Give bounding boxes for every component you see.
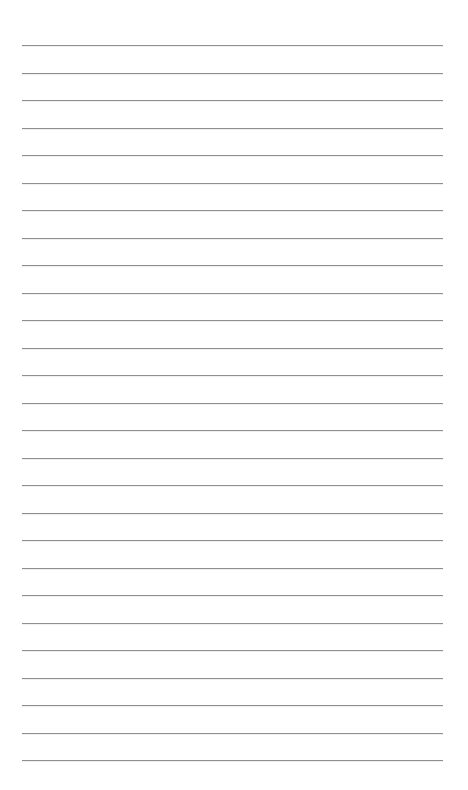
- ruled-line: [22, 100, 443, 101]
- ruled-line: [22, 293, 443, 294]
- ruled-line: [22, 760, 443, 761]
- ruled-line: [22, 430, 443, 431]
- ruled-line: [22, 45, 443, 46]
- ruled-line: [22, 403, 443, 404]
- ruled-line: [22, 678, 443, 679]
- ruled-line: [22, 320, 443, 321]
- ruled-line: [22, 458, 443, 459]
- ruled-line: [22, 238, 443, 239]
- ruled-line: [22, 348, 443, 349]
- ruled-line: [22, 540, 443, 541]
- ruled-line: [22, 210, 443, 211]
- ruled-line: [22, 73, 443, 74]
- ruled-line: [22, 733, 443, 734]
- ruled-line: [22, 568, 443, 569]
- ruled-line: [22, 375, 443, 376]
- ruled-line: [22, 128, 443, 129]
- ruled-line: [22, 650, 443, 651]
- ruled-line: [22, 485, 443, 486]
- ruled-line: [22, 265, 443, 266]
- lined-paper-page: [0, 0, 468, 790]
- ruled-line: [22, 705, 443, 706]
- ruled-line: [22, 155, 443, 156]
- ruled-line: [22, 183, 443, 184]
- ruled-line: [22, 595, 443, 596]
- ruled-line: [22, 623, 443, 624]
- ruled-line: [22, 513, 443, 514]
